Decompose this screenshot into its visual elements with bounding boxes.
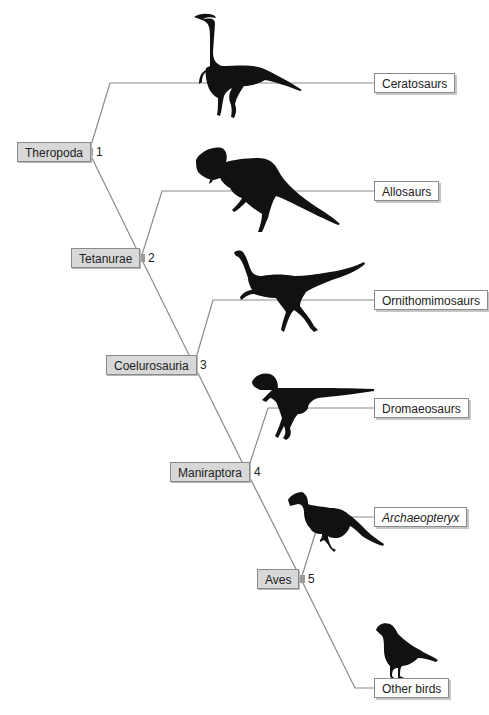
archaeopteryx-silhouette: [288, 492, 384, 552]
taxon-label-archaeopteryx: Archaeopteryx: [374, 507, 467, 527]
taxon-label-ceratosaurs: Ceratosaurs: [374, 73, 455, 93]
branch-other-birds: [301, 579, 378, 688]
clade-label-tetanurae: Tetanurae: [71, 248, 140, 268]
ornithomimosaur-silhouette: [234, 251, 365, 332]
dromaeosaur-silhouette: [252, 373, 374, 440]
cladogram-canvas: [0, 0, 489, 715]
node-number-1: 1: [96, 145, 103, 159]
node-number-3: 3: [200, 358, 207, 372]
clade-label-theropoda: Theropoda: [17, 142, 91, 162]
ceratosaur-silhouette: [194, 14, 302, 118]
node-number-2: 2: [148, 251, 155, 265]
clade-label-coelurosauria: Coelurosauria: [106, 355, 197, 375]
silhouettes: [194, 14, 438, 680]
clade-label-maniraptora: Maniraptora: [170, 462, 250, 482]
node-number-4: 4: [254, 465, 261, 479]
bird-silhouette: [376, 623, 438, 680]
clade-label-aves: Aves: [257, 569, 299, 589]
branch-dromaeosaurs: [247, 408, 378, 472]
branch-node2-node3: [141, 258, 194, 365]
taxon-label-ornithomimosaurs: Ornithomimosaurs: [374, 290, 488, 310]
branch-node4-node5: [247, 472, 301, 579]
branch-node3-node4: [194, 365, 247, 472]
node-number-5: 5: [308, 572, 315, 586]
branch-node1-node2: [89, 152, 141, 258]
taxon-label-other-birds: Other birds: [374, 678, 449, 698]
taxon-label-dromaeosaurs: Dromaeosaurs: [374, 398, 469, 418]
taxon-label-allosaurs: Allosaurs: [374, 181, 439, 201]
allosaur-silhouette: [196, 148, 340, 232]
